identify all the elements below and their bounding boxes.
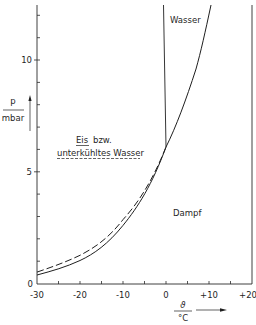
region-label-ice: Eis xyxy=(76,135,89,145)
ice-curve xyxy=(37,147,166,275)
x-tick-label-minus30: -30 xyxy=(30,290,44,300)
x-axis-label-unit: °C xyxy=(178,313,188,323)
x-tick-label-plus10: +10 xyxy=(200,290,218,300)
y-axis-arrow-icon xyxy=(28,95,31,131)
region-label-water: Wasser xyxy=(170,15,201,25)
water-curve xyxy=(166,5,211,147)
region-label-supercooled-water: unterkühltes Wasser xyxy=(57,148,144,158)
y-axis-label-unit: mbar xyxy=(2,113,25,123)
x-tick-label-0: 0 xyxy=(163,290,168,300)
vapor-pressure-chart: 0 5 10 -30 -20 -10 0 +10 +20 Wasser Damp… xyxy=(0,0,256,325)
y-tick-label-10: 10 xyxy=(21,55,32,65)
supercooled-water-curve xyxy=(37,147,166,272)
melting-line xyxy=(164,5,167,147)
y-axis-label-symbol: p xyxy=(10,96,15,106)
x-tick-label-plus20: +20 xyxy=(239,290,256,300)
x-axis-label-symbol: ϑ xyxy=(180,300,186,310)
x-tick-label-minus10: -10 xyxy=(116,290,130,300)
x-axis-arrow-icon xyxy=(196,308,227,311)
y-tick-label-5: 5 xyxy=(27,167,32,177)
x-tick-label-minus20: -20 xyxy=(73,290,87,300)
y-tick-label-0: 0 xyxy=(28,279,33,289)
region-label-vapor: Dampf xyxy=(173,208,202,218)
region-label-bzw: bzw. xyxy=(93,135,112,145)
